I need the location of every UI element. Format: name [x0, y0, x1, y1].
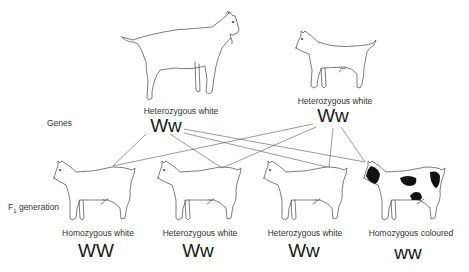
goat-parent-1-icon [122, 11, 239, 100]
offspring-3-genotype: Ww [288, 240, 320, 262]
offspring-1-phenotype: Homozygous white [62, 228, 134, 238]
goat-offspring-2-icon [158, 161, 241, 220]
line-p1-o1 [113, 134, 146, 166]
line-p1-o3 [184, 133, 327, 167]
offspring-1-genotype: WW [78, 240, 114, 262]
goat-parent-2-icon [296, 31, 376, 88]
line-p2-o1 [113, 124, 313, 166]
offspring-2-genotype: Ww [182, 240, 214, 262]
parent-2-genotype: Ww [317, 105, 349, 127]
line-p2-o4 [341, 127, 365, 162]
goat-offspring-1-icon [54, 161, 135, 220]
line-p2-o3 [329, 128, 333, 167]
line-p1-o2 [170, 134, 222, 168]
offspring-3-phenotype: Heterozygous white [268, 228, 343, 238]
f1-generation-label: F1 generation [8, 202, 59, 214]
offspring-4-phenotype: Homozygous coloured [369, 228, 454, 238]
offspring-4-genotype: ww [394, 242, 421, 264]
parent-1-genotype: Ww [150, 115, 182, 137]
offspring-2-phenotype: Heterozygous white [163, 228, 238, 238]
goat-offspring-3-icon [264, 161, 347, 220]
genes-label: Genes [47, 118, 72, 128]
f1-suffix: generation [17, 202, 60, 212]
